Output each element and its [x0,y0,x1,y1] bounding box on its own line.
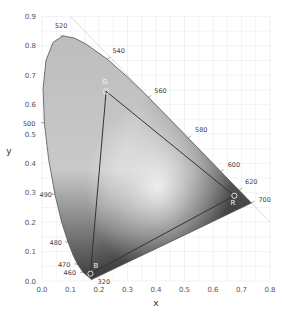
x-tick-label: 0.7 [236,286,247,294]
x-tick-label: 0.0 [36,286,47,294]
wavelength-label-490: 490 [40,191,52,199]
primary-B-label: B [93,262,98,270]
wavelength-label-560: 560 [154,87,166,95]
chromaticity-chart: RGB 520540560580600620700500490480470460… [0,0,282,316]
x-tick-label: 0.6 [207,286,219,294]
wavelength-label-540: 540 [112,47,124,55]
y-tick-label: 0.3 [25,189,36,197]
x-tick-label: 0.3 [122,286,133,294]
wavelength-label-320: 320 [98,278,110,286]
y-tick-label: 0.4 [25,160,37,168]
wavelength-label-500: 500 [23,120,35,128]
wavelength-label-600: 600 [228,161,240,169]
wavelength-label-520: 520 [55,22,67,30]
x-tick-label: 0.8 [264,286,275,294]
primary-R-label: R [230,199,235,207]
x-tick-label: 0.4 [150,286,162,294]
x-tick-label: 0.5 [179,286,190,294]
y-tick-label: 0.7 [25,72,36,80]
wavelength-label-620: 620 [245,178,257,186]
x-tick-label: 0.2 [93,286,104,294]
y-tick-label: 0.8 [25,42,36,50]
y-tick-label: 0.9 [25,13,36,21]
y-tick-label: 0.6 [25,101,37,109]
y-tick-label: 0.0 [25,278,36,286]
wavelength-label-580: 580 [195,126,207,134]
primary-G-label: G [102,78,107,86]
y-tick-label: 0.1 [25,248,36,256]
wavelength-label-480: 480 [50,239,62,247]
x-axis-label: x [153,298,159,308]
y-tick-label: 0.5 [25,131,36,139]
wavelength-label-470: 470 [58,261,70,269]
x-tick-label: 0.1 [65,286,76,294]
y-axis-label: y [6,146,12,156]
y-tick-label: 0.2 [25,219,36,227]
wavelength-label-700: 700 [258,196,270,204]
wavelength-label-460: 460 [64,269,76,277]
